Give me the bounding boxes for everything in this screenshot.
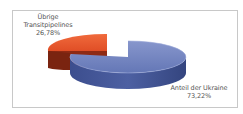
label-value: 73,22% (165, 92, 233, 100)
label-ubrige-transitpipelines: Übrige Transitpipelines 26,78% (22, 13, 74, 37)
label-anteil-der-ukraine: Anteil der Ukraine 73,22% (165, 84, 233, 100)
label-value: 26,78% (22, 29, 74, 37)
label-name-line1: Übrige (22, 13, 74, 21)
label-name-line2: Transitpipelines (22, 21, 74, 29)
label-name: Anteil der Ukraine (165, 84, 233, 92)
